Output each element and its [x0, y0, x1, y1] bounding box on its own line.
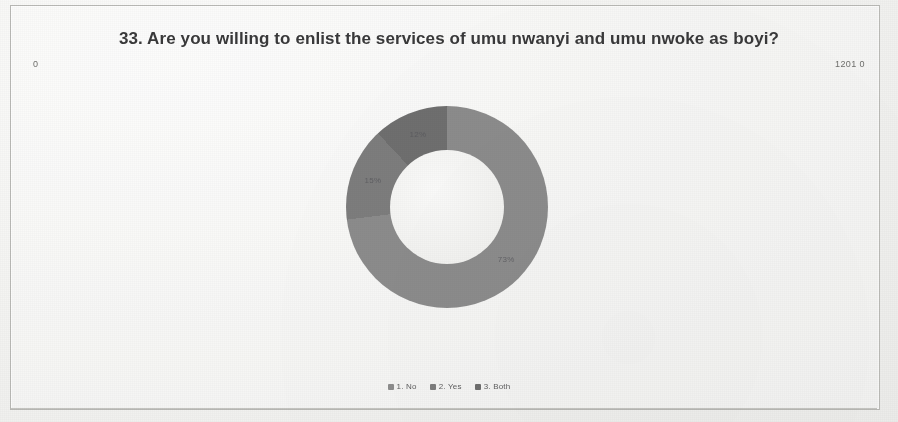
scanned-page: 0 1201 0 33. Are you willing to enlist t… — [0, 0, 898, 422]
legend-swatch-icon-both — [475, 384, 481, 390]
legend-item-no: 1. No — [388, 382, 417, 391]
slice-label-yes: 15% — [364, 176, 381, 185]
legend-swatch-icon-yes — [430, 384, 436, 390]
corner-label-left: 0 — [33, 59, 38, 69]
page-frame-bottom-rule — [11, 408, 877, 409]
legend-item-yes: 2. Yes — [430, 382, 462, 391]
donut-center-hole — [390, 150, 504, 264]
slice-label-both: 12% — [410, 129, 427, 138]
corner-label-right: 1201 0 — [835, 59, 865, 69]
legend-swatch-icon-no — [388, 384, 394, 390]
chart-title: 33. Are you willing to enlist the servic… — [90, 28, 808, 51]
legend-item-both: 3. Both — [475, 382, 511, 391]
legend-label-yes: 2. Yes — [439, 382, 462, 391]
legend-label-both: 3. Both — [484, 382, 511, 391]
slice-label-no: 73% — [498, 255, 515, 264]
legend-label-no: 1. No — [397, 382, 417, 391]
donut-chart: 73% 15% 12% — [346, 106, 548, 308]
chart-legend: 1. No 2. Yes 3. Both — [0, 382, 898, 391]
